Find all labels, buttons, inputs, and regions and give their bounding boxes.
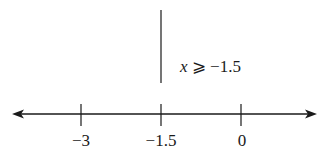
inequality-value: −1.5	[210, 57, 241, 76]
inequality-operator: ⩾	[192, 57, 206, 76]
inequality-variable: x	[180, 57, 188, 76]
tick-label-neg1-5: −1.5	[146, 132, 177, 149]
inequality-label: x ⩾ −1.5	[180, 58, 241, 75]
tick-label-zero: 0	[238, 132, 247, 149]
tick-label-neg3: −3	[72, 132, 90, 149]
